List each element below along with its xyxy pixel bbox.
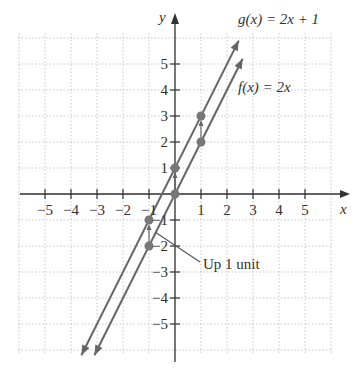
f-label: f(x) = 2x: [238, 79, 291, 96]
axes: [20, 13, 350, 362]
svg-text:5: 5: [161, 56, 169, 72]
x-axis-label: x: [339, 201, 347, 217]
svg-text:3: 3: [249, 202, 257, 218]
svg-text:4: 4: [275, 202, 283, 218]
svg-text:3: 3: [161, 108, 169, 124]
annotation-label: Up 1 unit: [203, 256, 261, 272]
svg-text:−4: −4: [152, 290, 168, 306]
svg-text:1: 1: [161, 160, 169, 176]
svg-text:−2: −2: [115, 202, 131, 218]
g-label: g(x) = 2x + 1: [238, 11, 319, 28]
svg-text:−1: −1: [152, 212, 168, 228]
svg-text:1: 1: [197, 202, 205, 218]
chart: −5−4−3−2−11234554321−1−2−3−4−5 g(x) = 2x…: [0, 0, 361, 373]
svg-text:−2: −2: [152, 238, 168, 254]
y-axis-label: y: [157, 9, 166, 25]
svg-text:−5: −5: [152, 316, 168, 332]
svg-text:−5: −5: [37, 202, 53, 218]
svg-text:−3: −3: [152, 264, 168, 280]
svg-text:−3: −3: [89, 202, 105, 218]
svg-text:5: 5: [301, 202, 309, 218]
svg-text:2: 2: [161, 134, 169, 150]
svg-text:4: 4: [161, 82, 169, 98]
svg-text:−4: −4: [63, 202, 79, 218]
svg-text:2: 2: [223, 202, 231, 218]
